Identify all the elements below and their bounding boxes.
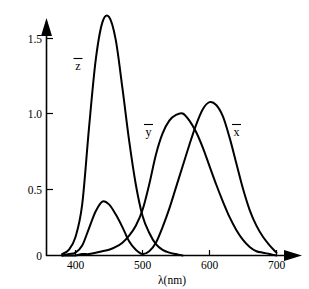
curve-label-z-text: z [75,59,80,73]
curves-group [62,16,276,256]
x-axis-arrow-icon [284,250,302,261]
axes-group [41,18,302,261]
curve-label-z-bar: z [74,59,83,74]
curve-label-x-text: x [234,125,240,139]
y-axis-arrow-icon [41,18,52,36]
x-tick-label-700: 700 [268,259,286,271]
curve-label-y-bar: y [144,125,153,140]
curve-label-y-text: y [146,125,152,139]
y-tick-labels-group: 1.5 1.0 0.5 0 [28,33,43,262]
chart-figure: 1.5 1.0 0.5 0 400 500 600 700 λ(nm) [0,0,309,289]
curve-x-bar [62,102,276,256]
y-ticks-group [47,39,54,190]
x-tick-label-600: 600 [201,259,219,271]
x-tick-label-400: 400 [67,259,85,271]
y-tick-label-0: 0 [36,250,42,262]
y-tick-label-1-0: 1.0 [28,108,43,120]
y-tick-label-0-5: 0.5 [28,184,43,196]
cie-color-matching-functions-chart: 1.5 1.0 0.5 0 400 500 600 700 λ(nm) [0,0,309,289]
x-tick-labels-group: 400 500 600 700 [67,259,286,271]
x-axis-title: λ(nm) [158,274,186,287]
y-tick-label-1-5: 1.5 [28,33,43,45]
x-tick-label-500: 500 [134,259,152,271]
curve-y-bar [62,113,276,255]
curve-labels-group: z y x [74,59,242,140]
curve-label-x-bar: x [232,125,241,140]
